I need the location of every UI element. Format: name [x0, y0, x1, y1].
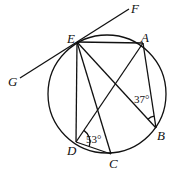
angle-label-b: 37°: [134, 93, 149, 105]
circle-figure: EABCDGF 37°53°: [0, 0, 174, 171]
point-label-g: G: [8, 74, 18, 89]
point-label-f: F: [130, 1, 140, 16]
segment-ea: [77, 42, 143, 43]
geometry-diagram: EABCDGF 37°53°: [0, 0, 174, 171]
segment-eb: [77, 42, 156, 128]
point-label-e: E: [66, 31, 75, 46]
angle-arc-b: [148, 116, 154, 119]
angle-label-d: 53°: [86, 133, 101, 145]
point-label-a: A: [140, 30, 149, 45]
segment-ad: [76, 43, 143, 142]
point-label-d: D: [66, 143, 77, 158]
segment-ed: [76, 42, 77, 142]
point-label-c: C: [109, 156, 118, 171]
point-label-b: B: [157, 128, 165, 143]
